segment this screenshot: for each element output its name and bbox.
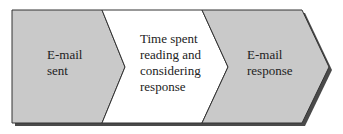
step-3-label: E-mail response [247, 47, 293, 79]
step-1-label: E-mail sent [47, 47, 82, 79]
step-2-label: Time spent reading and considering respo… [140, 31, 201, 95]
